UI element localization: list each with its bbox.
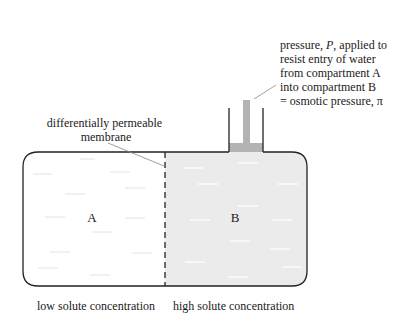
pressure-annotation: pressure, P, applied to resist entry of … xyxy=(280,38,390,108)
compartment-b-label: B xyxy=(231,210,240,225)
pressure-line-4: into compartment B xyxy=(280,80,376,94)
pressure-leader-line xyxy=(254,85,276,99)
membrane-label-line-1: differentially permeable xyxy=(47,116,162,130)
pressure-column xyxy=(243,100,250,146)
osmosis-diagram: pressure, P, applied to resist entry of … xyxy=(0,0,406,325)
compartment-a-label: A xyxy=(87,210,97,225)
pressure-line-3: from compartment A xyxy=(280,66,381,80)
pressure-piston-base xyxy=(229,143,263,152)
pressure-line-5: = osmotic pressure, π xyxy=(280,94,383,108)
membrane-label-line-2: membrane xyxy=(81,130,132,144)
pressure-line-1: pressure, P, applied to xyxy=(280,38,387,52)
membrane-leader-line xyxy=(108,143,164,166)
pressure-line-1-prefix: pressure, xyxy=(280,38,326,52)
caption-high-solute: high solute concentration xyxy=(173,299,294,313)
pressure-line-2: resist entry of water xyxy=(280,52,376,66)
pressure-line-1-suffix: , applied to xyxy=(333,38,387,52)
caption-low-solute: low solute concentration xyxy=(37,299,155,313)
membrane-label: differentially permeable membrane xyxy=(47,116,165,144)
